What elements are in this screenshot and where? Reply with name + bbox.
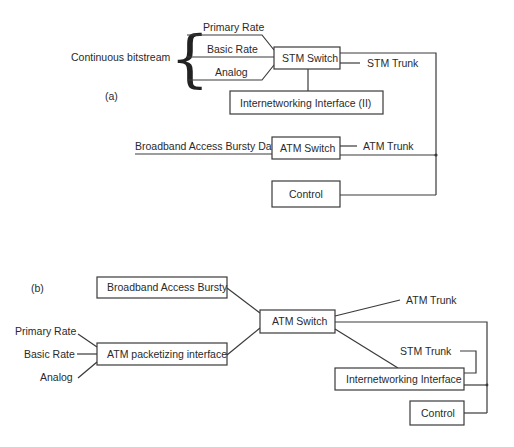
atm-trunk-label: ATM Trunk <box>406 294 457 306</box>
control-bus-line <box>340 53 436 195</box>
junction-dot <box>434 153 437 156</box>
network-diagram: Continuous bitstream { (a) Primary Rate … <box>0 0 514 447</box>
analog-line <box>78 362 97 378</box>
stm-trunk-label: STM Trunk <box>367 57 419 69</box>
diagram-a: Continuous bitstream { (a) Primary Rate … <box>71 21 438 207</box>
broadband-input-label: Broadband Access Bursty Data <box>135 140 280 152</box>
diagram-a-label: (a) <box>105 90 118 102</box>
broadband-access-label: Broadband Access Bursty <box>107 281 228 293</box>
stm-switch-label: STM Switch <box>282 52 338 64</box>
atm-trunk-label: ATM Trunk <box>363 140 414 152</box>
continuous-bitstream-label: Continuous bitstream <box>71 51 170 63</box>
junction-dot <box>486 384 489 387</box>
diagram-b: (b) Broadband Access Bursty Primary Rate… <box>15 277 488 425</box>
switch-to-iwi-line <box>335 329 398 368</box>
input-basic-rate: Basic Rate <box>24 348 75 360</box>
control-label: Control <box>421 407 455 419</box>
atm-trunk-line <box>335 300 400 316</box>
input-primary-rate: Primary Rate <box>15 325 76 337</box>
control-label: Control <box>289 188 323 200</box>
input-basic-rate: Basic Rate <box>207 43 258 55</box>
atm-switch-label: ATM Switch <box>280 142 335 154</box>
stm-trunk-label: STM Trunk <box>400 345 452 357</box>
interworking-interface-label: Internetworking Interface (II) <box>240 97 371 109</box>
input-primary-rate: Primary Rate <box>203 21 264 33</box>
packetizer-to-switch-line <box>227 328 260 355</box>
broadband-to-switch-line <box>227 288 260 313</box>
input-analog: Analog <box>40 371 73 383</box>
interworking-interface-label: Internetworking Interface <box>346 373 462 385</box>
input-analog: Analog <box>215 66 248 78</box>
primary-rate-line <box>78 334 97 347</box>
diagram-b-label: (b) <box>31 282 44 294</box>
atm-packetizing-label: ATM packetizing interface <box>107 348 227 360</box>
atm-switch-label: ATM Switch <box>272 315 327 327</box>
